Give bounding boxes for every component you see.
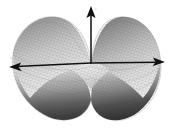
y-axis-positive-line bbox=[91, 62, 158, 63]
surface-plot-figure: z x y bbox=[0, 0, 171, 128]
origin-marker bbox=[90, 62, 92, 64]
surface-plot-canvas: z x y bbox=[0, 0, 171, 128]
z-axis-label: z bbox=[95, 6, 97, 11]
